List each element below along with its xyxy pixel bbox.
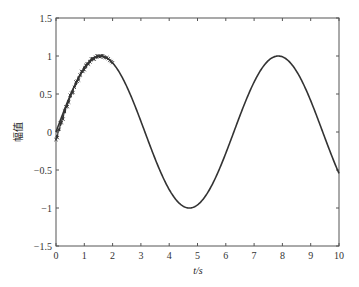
axis-ticks: 012345678910−1.5−1−0.500.511.5 (34, 13, 344, 262)
data-series (54, 54, 339, 208)
y-axis-label: 幅值 (12, 122, 24, 142)
x-tick-label: 2 (110, 250, 115, 261)
x-tick-label: 10 (334, 250, 344, 261)
x-tick-label: 1 (82, 250, 87, 261)
y-tick-label: −0.5 (34, 165, 52, 176)
y-tick-label: −1 (41, 203, 52, 214)
y-tick-label: 1.5 (40, 13, 53, 24)
x-tick-label: 4 (167, 250, 172, 261)
y-tick-label: 0.5 (40, 89, 53, 100)
x-tick-label: 0 (54, 250, 59, 261)
plot-frame (56, 18, 339, 246)
y-tick-label: 0 (47, 127, 52, 138)
x-tick-label: 5 (195, 250, 200, 261)
y-tick-label: 1 (47, 51, 52, 62)
x-tick-label: 9 (308, 250, 313, 261)
tracking-line (56, 55, 113, 139)
x-tick-label: 7 (252, 250, 257, 261)
x-tick-label: 8 (280, 250, 285, 261)
line-chart: 012345678910−1.5−1−0.500.511.5 t/s 幅值 (0, 0, 359, 287)
y-tick-label: −1.5 (34, 241, 52, 252)
plot-area: 012345678910−1.5−1−0.500.511.5 (34, 13, 344, 262)
reference-line (56, 56, 339, 208)
x-tick-label: 3 (138, 250, 143, 261)
x-axis-label: t/s (193, 265, 203, 276)
x-tick-label: 6 (223, 250, 228, 261)
